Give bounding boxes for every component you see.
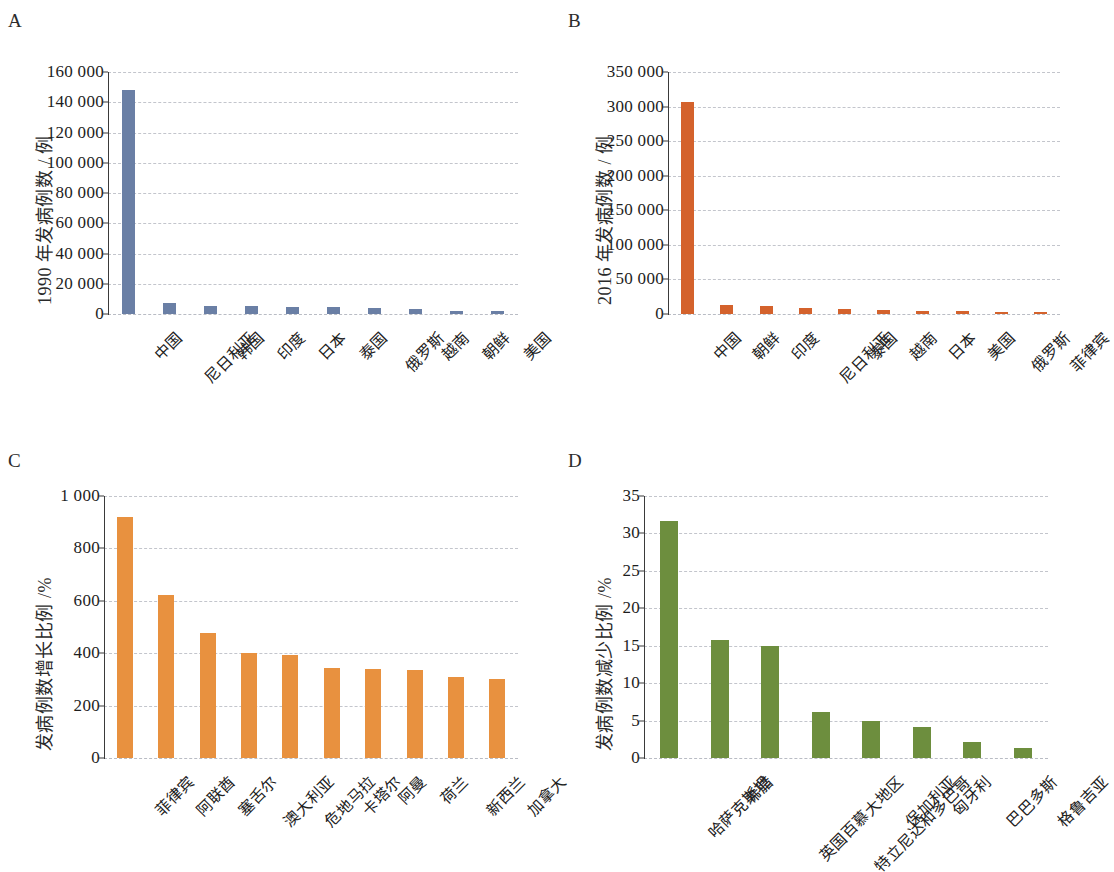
bar[interactable] [282,655,298,758]
bar[interactable] [838,309,851,314]
bar[interactable] [450,311,463,314]
bar[interactable] [913,727,931,758]
bar[interactable] [491,311,504,314]
bar[interactable] [241,653,257,758]
chart-baseline [104,758,518,759]
y-tick-label: 200 [74,696,100,716]
gridline [644,646,1048,647]
gridline [108,254,518,255]
bar[interactable] [245,306,258,314]
x-category-label: 朝鲜 [746,326,784,364]
gridline [644,721,1048,722]
bar[interactable] [812,712,830,758]
bar[interactable] [660,521,678,758]
bar[interactable] [995,312,1008,314]
gridline [644,533,1048,534]
gridline [668,176,1060,177]
y-tick-label: 140 000 [47,92,104,112]
x-category-label: 美国 [981,326,1019,364]
chart-d-category-labels: 哈萨克斯坦希腊英国百慕大地区特立尼达和多巴哥保加利亚匈牙利巴巴多斯格鲁吉亚 [644,764,1048,872]
chart-baseline [668,314,1060,315]
x-category-label: 塞舌尔 [232,770,281,819]
gridline [108,284,518,285]
panel-d: D 发病例数减少比例 /% 05101520253035 哈萨克斯坦希腊英国百慕… [534,436,1068,872]
bar[interactable] [117,517,133,758]
y-tick-label: 80 000 [55,183,104,203]
x-category-label: 荷兰 [434,770,472,808]
gridline [668,141,1060,142]
x-category-label: 越南 [903,326,941,364]
panel-a: A 1990 年发病例数 / 例 020 00040 00060 00080 0… [0,0,534,436]
y-tick-label: 15 [622,636,640,656]
bar[interactable] [286,307,299,314]
bar[interactable] [862,721,880,758]
bar[interactable] [799,308,812,314]
gridline [108,223,518,224]
bar[interactable] [448,677,464,758]
bar[interactable] [204,306,217,314]
gridline [104,548,518,549]
bar[interactable] [365,669,381,758]
y-tick-label: 20 000 [55,274,104,294]
bar[interactable] [1034,312,1047,314]
x-category-label: 中国 [148,326,186,364]
bar[interactable] [711,640,729,758]
gridline [108,133,518,134]
x-category-label: 阿曼 [392,770,430,808]
x-category-label: 新西兰 [480,770,529,819]
gridline [644,496,1048,497]
bar[interactable] [368,308,381,314]
y-tick-label: 350 000 [607,62,664,82]
x-category-label: 朝鲜 [476,326,514,364]
gridline [668,279,1060,280]
bar[interactable] [122,90,135,314]
x-category-label: 印度 [785,326,823,364]
bar[interactable] [681,102,694,314]
chart-c: 发病例数增长比例 /% 02004006008001 000 菲律宾阿联酋塞舌尔… [0,436,534,872]
chart-d: 发病例数减少比例 /% 05101520253035 哈萨克斯坦希腊英国百慕大地… [534,436,1068,872]
chart-c-category-labels: 菲律宾阿联酋塞舌尔澳大利亚危地马拉卡塔尔阿曼荷兰新西兰加拿大 [104,764,518,872]
bar[interactable] [158,595,174,758]
y-axis [104,496,105,759]
y-axis [644,496,645,759]
chart-b-plot-area [668,72,1060,314]
y-tick-label: 30 [622,523,640,543]
chart-a: 1990 年发病例数 / 例 020 00040 00060 00080 000… [0,0,534,436]
bar[interactable] [760,306,773,314]
chart-d-ylabel: 发病例数减少比例 /% [590,577,616,751]
bar[interactable] [409,309,422,314]
x-category-label: 泰国 [353,326,391,364]
gridline [644,608,1048,609]
chart-a-category-labels: 中国尼日利亚韩国印度日本泰国俄罗斯越南朝鲜美国 [108,320,518,430]
bar[interactable] [200,633,216,758]
gridline [104,496,518,497]
bar[interactable] [163,303,176,314]
y-tick-label: 600 [74,591,100,611]
y-tick-label: 40 000 [55,244,104,264]
y-axis [668,72,669,315]
bar[interactable] [956,311,969,314]
panel-b: B 2016 年发病例数 / 例 050 000100 000150 00020… [534,0,1068,436]
bar[interactable] [324,668,340,758]
bar[interactable] [489,679,505,758]
y-tick-label: 400 [74,643,100,663]
chart-b-category-labels: 中国朝鲜印度尼日利亚泰国越南日本美国俄罗斯菲律宾 [668,320,1060,430]
x-category-label: 日本 [942,326,980,364]
y-tick-label: 160 000 [47,62,104,82]
gridline [644,683,1048,684]
bar[interactable] [963,742,981,758]
gridline [644,571,1048,572]
chart-baseline [108,314,518,315]
y-tick-label: 60 000 [55,213,104,233]
bar[interactable] [877,310,890,314]
bar[interactable] [916,311,929,314]
y-tick-label: 120 000 [47,123,104,143]
y-tick-label: 25 [622,561,640,581]
bar[interactable] [720,305,733,314]
bar[interactable] [327,307,340,314]
bar[interactable] [1014,748,1032,758]
y-tick-label: 150 000 [607,200,664,220]
bar[interactable] [407,670,423,758]
bar[interactable] [761,646,779,758]
y-tick-label: 250 000 [607,131,664,151]
